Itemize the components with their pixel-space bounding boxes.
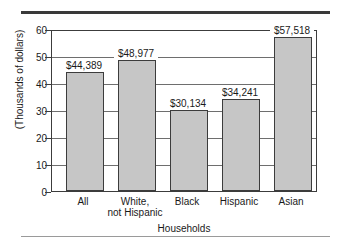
value-label-white-not-hispanic: $48,977 [114, 48, 158, 59]
bottom-divider-rule [21, 236, 330, 237]
y-tick-label-40: 40 [36, 80, 47, 90]
bar-white-not-hispanic[interactable] [118, 60, 156, 191]
bars-layer [52, 31, 316, 191]
y-tick-label-60: 60 [36, 26, 47, 36]
bar-asian[interactable] [274, 37, 312, 191]
x-category-label-asian-line1: Asian [278, 196, 303, 207]
bar-hispanic[interactable] [222, 99, 260, 191]
x-category-label-white-line2: not Hispanic [96, 207, 174, 218]
plot-area [51, 30, 317, 192]
x-category-label-white-line1: White, [121, 196, 149, 207]
bar-black[interactable] [170, 110, 208, 191]
y-tick-label-30: 30 [36, 107, 47, 117]
x-category-label-all-line1: All [77, 196, 88, 207]
x-category-label-black-line1: Black [175, 196, 199, 207]
y-tick-label-50: 50 [36, 53, 47, 63]
top-divider-rule [21, 11, 330, 14]
value-label-hispanic: $34,241 [218, 87, 262, 98]
value-label-all: $44,389 [62, 60, 106, 71]
x-category-label-asian: Asian [252, 196, 330, 207]
y-axis-tick-labels: 60 50 40 30 20 10 0 [26, 0, 47, 244]
y-tick-label-20: 20 [36, 134, 47, 144]
bar-all[interactable] [66, 72, 104, 191]
chart-figure: 60 50 40 30 20 10 0 (Thousands of dollar… [0, 0, 350, 244]
y-axis-title: (Thousands of dollars) [14, 5, 25, 155]
x-axis-title: Households [51, 223, 317, 234]
value-label-black: $30,134 [166, 98, 210, 109]
y-tick-label-10: 10 [36, 161, 47, 171]
y-tick-mark-0 [45, 192, 51, 193]
value-label-asian: $57,518 [270, 25, 314, 36]
